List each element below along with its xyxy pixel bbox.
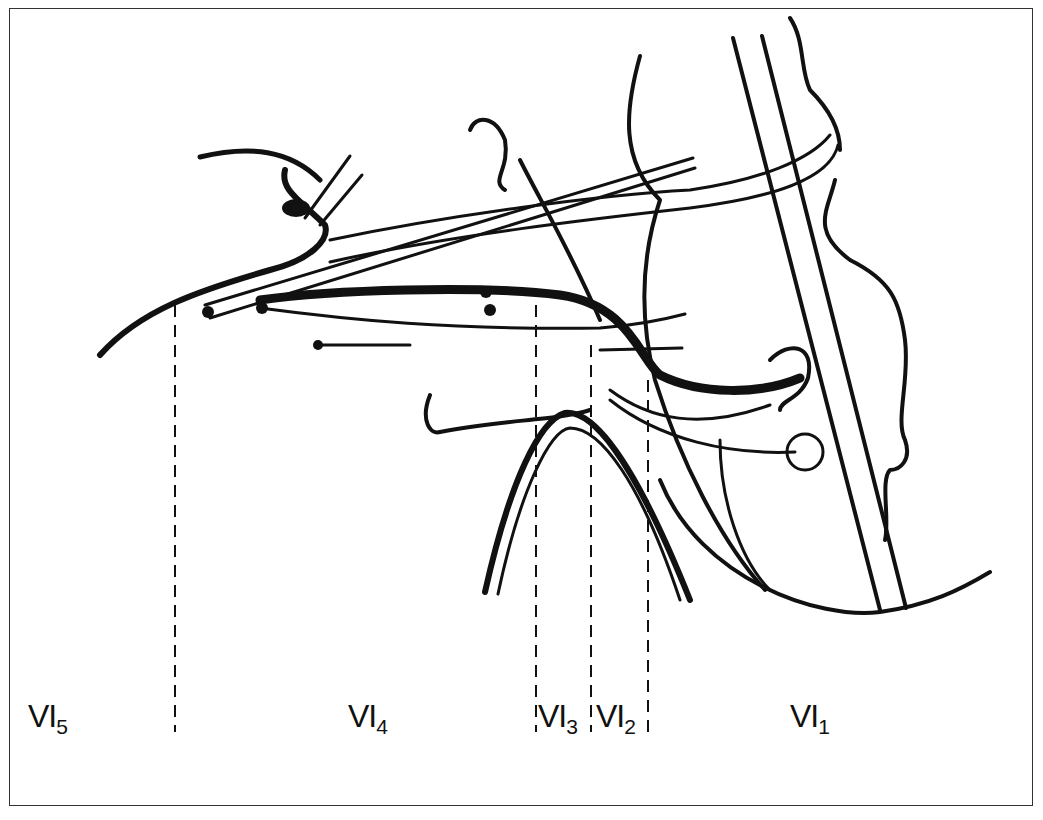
zone-base: VI <box>596 698 624 734</box>
short-rod-1 <box>305 156 350 218</box>
top-hook <box>200 151 320 180</box>
spine-upper-loop <box>470 120 506 190</box>
knob-5 <box>313 340 323 350</box>
rod-left <box>733 38 880 610</box>
thin-rod-1 <box>205 158 693 305</box>
knob-2 <box>256 302 268 314</box>
knob-3 <box>480 286 492 298</box>
zone-base: VI <box>790 698 818 734</box>
zone-sub: 5 <box>56 715 68 738</box>
zone-base: VI <box>538 698 566 734</box>
short-rod-2 <box>320 175 362 225</box>
heavy-arc <box>260 290 800 391</box>
mandible-arc <box>660 480 990 613</box>
zone-label-vi3: VI3 <box>538 700 578 737</box>
blob-upper <box>282 199 310 217</box>
lower-band-4 <box>600 348 682 350</box>
upper-curve <box>100 170 326 355</box>
knob-1 <box>202 306 214 318</box>
zone-label-vi1: VI1 <box>790 700 830 737</box>
zone-sub: 2 <box>624 715 636 738</box>
zone-sub: 4 <box>376 715 388 738</box>
zone-label-vi5: VI5 <box>28 700 68 737</box>
zone-sub: 3 <box>566 715 578 738</box>
zone-base: VI <box>348 698 376 734</box>
zone-sub: 1 <box>818 715 830 738</box>
anatomical-drawing <box>0 0 1043 820</box>
zone-base: VI <box>28 698 56 734</box>
zone-label-vi2: VI2 <box>596 700 636 737</box>
zone-label-vi4: VI4 <box>348 700 388 737</box>
lower-band-1 <box>260 308 685 328</box>
skull-outline <box>790 18 907 540</box>
loop-band-upper <box>330 135 830 240</box>
zone-dividers <box>175 305 648 732</box>
arch-outer <box>485 413 690 600</box>
knob-4 <box>484 304 496 316</box>
